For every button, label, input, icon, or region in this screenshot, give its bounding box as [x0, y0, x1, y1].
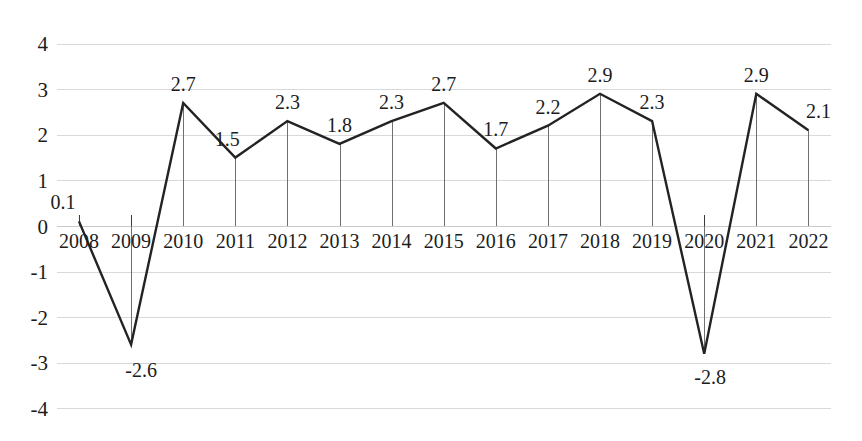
y-axis-tick-labels: 43210-1-2-3-4: [31, 32, 49, 421]
x-axis-tick-label: 2015: [424, 230, 464, 252]
y-axis-tick-label: 2: [38, 123, 49, 147]
gridlines: [57, 44, 831, 409]
data-point-label: 2.1: [806, 100, 831, 122]
series-polyline: [79, 94, 808, 354]
x-axis-tick-label: 2020: [684, 230, 724, 252]
y-axis-tick-label: 0: [38, 215, 49, 239]
y-axis-tick-label: 3: [38, 78, 49, 102]
x-axis-tick-label: 2017: [528, 230, 568, 252]
data-point-label: 2.3: [379, 91, 404, 113]
y-axis-tick-label: -2: [31, 306, 49, 330]
data-point-label: 2.7: [171, 73, 196, 95]
x-axis-tick-label: 2008: [59, 230, 99, 252]
data-point-label: 2.3: [275, 91, 300, 113]
y-axis-tick-label: 4: [38, 32, 49, 56]
data-point-label: -2.8: [694, 366, 726, 388]
y-axis-tick-label: -3: [31, 351, 49, 375]
data-point-labels: 0.1-2.62.71.52.31.82.32.71.72.22.92.3-2.…: [51, 64, 831, 388]
y-axis-tick-label: -4: [31, 397, 49, 421]
data-point-label: 2.3: [640, 91, 665, 113]
data-point-label: 1.8: [327, 114, 352, 136]
x-axis-tick-label: 2013: [320, 230, 360, 252]
data-point-label: 2.9: [744, 64, 769, 86]
data-point-label: 1.5: [215, 128, 240, 150]
x-axis-tick-label: 2012: [267, 230, 307, 252]
chart-canvas: 43210-1-2-3-4 20082009201020112012201320…: [0, 0, 862, 441]
x-axis-tick-label: 2021: [736, 230, 776, 252]
y-axis-tick-label: 1: [38, 169, 49, 193]
line-chart: 43210-1-2-3-4 20082009201020112012201320…: [0, 0, 862, 441]
data-point-label: 0.1: [51, 191, 76, 213]
x-axis-tick-label: 2014: [372, 230, 412, 252]
series-line: [79, 94, 808, 354]
data-point-label: -2.6: [125, 359, 157, 381]
x-axis-tick-label: 2010: [163, 230, 203, 252]
y-axis-tick-label: -1: [31, 260, 49, 284]
data-point-label: 2.2: [535, 96, 560, 118]
data-point-label: 2.9: [588, 64, 613, 86]
data-point-label: 2.7: [431, 73, 456, 95]
x-axis-tick-label: 2019: [632, 230, 672, 252]
x-axis-tick-label: 2011: [216, 230, 255, 252]
x-axis-tick-labels: 2008200920102011201220132014201520162017…: [59, 230, 828, 252]
x-axis-tick-label: 2018: [580, 230, 620, 252]
x-axis-tick-label: 2009: [111, 230, 151, 252]
x-axis-tick-label: 2016: [476, 230, 516, 252]
x-axis-tick-label: 2022: [788, 230, 828, 252]
droplines: [80, 94, 809, 354]
data-point-label: 1.7: [483, 118, 508, 140]
